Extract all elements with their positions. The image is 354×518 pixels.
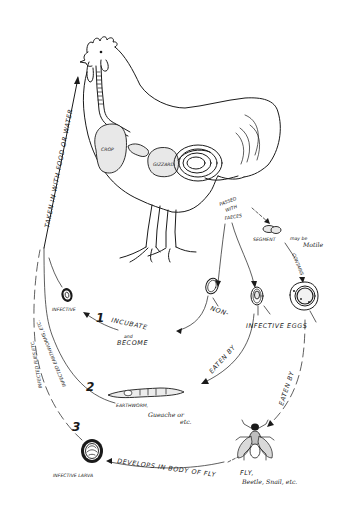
egg-developing: [251, 287, 263, 305]
rooster-illustration: CROP GIZZARD: [80, 37, 280, 262]
intestines: [174, 145, 238, 181]
life-cycle-diagram: CROP GIZZARD TAKEN IN WITH FOOD OR WAT: [0, 0, 354, 518]
become-label: BECOME: [117, 339, 148, 347]
fly-label: FLY,: [240, 469, 254, 477]
eaten-by-label-2: EATEN BY: [277, 370, 296, 407]
legs: [120, 205, 196, 262]
svg-text:Motile: Motile: [302, 241, 324, 248]
infected-flies-label: INFECTED FLIES ETC.: [30, 340, 43, 389]
segment-label: SEGMENT: [253, 237, 277, 242]
develops-label: DEVELOPS IN BODY OF FLY: [117, 457, 217, 479]
step-3-fly: EATEN BY FLY, Beetle, Snail, etc. DEVELO…: [30, 250, 305, 485]
eaten-by-label-1: EATEN BY: [208, 343, 238, 375]
segment: SEGMENT may be Motile CONTAINS: [253, 226, 324, 284]
taken-in-arrow: TAKEN IN WITH FOOD OR WATER: [43, 76, 80, 248]
taken-in-label: TAKEN IN WITH FOOD OR WATER: [43, 108, 75, 228]
earthworm-label: EARTHWORM,: [116, 403, 148, 408]
step-2-earthworm: EATEN BY EARTHWORM, Gueache or etc. 2 IN…: [36, 248, 254, 425]
contains-label: CONTAINS: [291, 253, 304, 277]
svg-text:etc.: etc.: [180, 418, 192, 425]
step-number-2: 2: [86, 380, 94, 394]
crop-label: CROP: [101, 147, 114, 152]
infective-egg: INFECTIVE: [52, 287, 76, 312]
infective-larva: [81, 439, 103, 463]
step-number-3: 3: [72, 420, 80, 434]
step-number-1: 1: [96, 311, 104, 325]
svg-text:Gueache or: Gueache or: [148, 411, 185, 418]
egg-infective: [290, 282, 318, 310]
fly-note: Beetle, Snail, etc.: [241, 478, 297, 485]
svg-text:FAECES: FAECES: [224, 213, 242, 221]
infective-eggs-label: INFECTIVE EGGS: [246, 322, 307, 330]
infective-larva-label: INFECTIVE LARVA: [53, 473, 93, 478]
egg-non-infective: [204, 276, 221, 295]
infective-label: INFECTIVE: [52, 307, 76, 312]
step-1-incubate: 1 INCUBATE and BECOME: [83, 296, 208, 347]
svg-text:WITH: WITH: [225, 204, 239, 213]
non-label: NON-: [209, 304, 230, 318]
gizzard-label: GIZZARD: [153, 162, 175, 167]
